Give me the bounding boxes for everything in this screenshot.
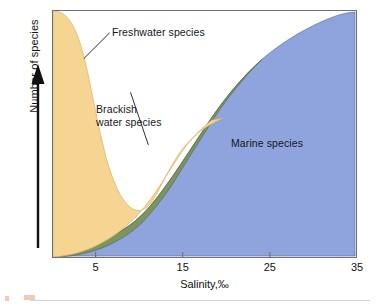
plot-area [52, 10, 357, 258]
x-axis-tick-labels: 5152535 [52, 261, 357, 277]
scan-artifact [5, 296, 9, 301]
page-rule [30, 300, 370, 301]
y-axis-label: Number of species [28, 0, 40, 146]
annotation-freshwater-species: Freshwater species [112, 26, 205, 39]
x-axis-tick-label: 35 [351, 261, 363, 273]
annotation-marine-species: Marine species [231, 137, 303, 150]
x-axis-tick-label: 5 [93, 261, 99, 273]
freshwater-leader-line [84, 33, 110, 59]
x-axis-label: Salinity,‰ [52, 278, 357, 290]
annotation-brackish-water-species: Brackish water species [96, 103, 166, 128]
salinity-species-figure: Number of species Freshwater species Bra… [0, 0, 376, 305]
scan-artifact [24, 295, 35, 300]
x-axis-tick-marks [52, 252, 357, 260]
x-axis-tick-label: 25 [264, 261, 276, 273]
x-axis-tick-label: 15 [177, 261, 189, 273]
annotation-leader-lines [53, 11, 356, 257]
